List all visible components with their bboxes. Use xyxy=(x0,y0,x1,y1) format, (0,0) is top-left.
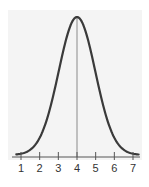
x-tick-label: 6 xyxy=(111,162,117,174)
x-tick-label: 7 xyxy=(130,162,136,174)
bell-curve-chart: 1234567 xyxy=(0,0,149,187)
plot-background xyxy=(8,10,142,160)
x-tick-label: 3 xyxy=(55,162,61,174)
x-tick-label: 1 xyxy=(18,162,24,174)
x-tick-label: 5 xyxy=(93,162,99,174)
x-tick-label: 2 xyxy=(37,162,43,174)
x-tick-label: 4 xyxy=(74,162,80,174)
